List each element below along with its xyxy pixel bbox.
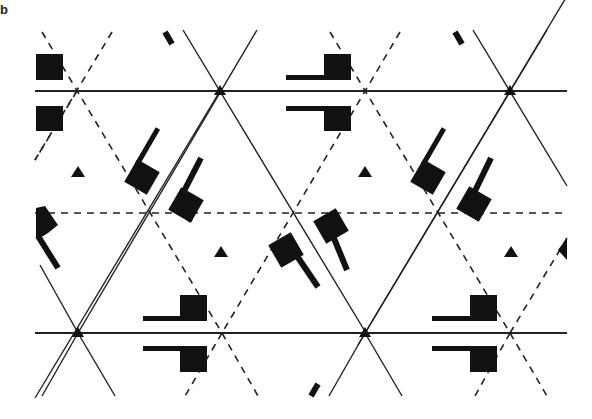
symmetry-pattern-diagram <box>0 0 592 419</box>
rotation-centre-triangles <box>71 85 518 337</box>
flag-pole-fragments <box>165 32 462 396</box>
triangle-icon <box>71 166 85 177</box>
triangle-icon <box>72 327 84 337</box>
triangle-icon <box>359 327 371 337</box>
triangle-icon <box>214 246 228 257</box>
triangle-icon <box>358 166 372 177</box>
dashed-diagonal-lines <box>35 32 567 396</box>
triangle-icon <box>504 85 516 95</box>
triangle-icon <box>504 246 518 257</box>
